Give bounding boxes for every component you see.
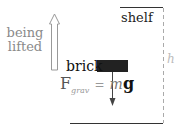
shelf-label: shelf	[121, 10, 153, 25]
brick-label: brick	[66, 58, 102, 74]
equals-sign: =	[94, 78, 104, 92]
mass-symbol: m	[110, 76, 123, 92]
force-symbol: F	[60, 74, 71, 93]
lift-arrow-icon	[50, 14, 60, 70]
gravity-symbol: g	[123, 74, 134, 93]
height-label: h	[167, 52, 175, 66]
gravity-force-label: Fgrav = mg	[60, 74, 134, 95]
force-subscript: grav	[71, 86, 89, 95]
